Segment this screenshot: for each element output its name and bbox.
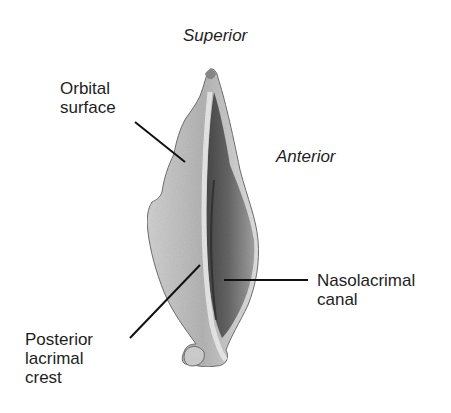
posterior-lacrimal-crest-label-line2: lacrimal: [25, 349, 93, 368]
orbital-surface-label-line1: Orbital: [60, 79, 116, 98]
orbital-surface-label: Orbital surface: [60, 79, 116, 117]
superior-label: Superior: [183, 26, 247, 45]
nasolacrimal-canal-label-line2: canal: [317, 290, 415, 309]
posterior-lacrimal-crest-label-line3: crest: [25, 368, 93, 387]
anterior-label: Anterior: [276, 147, 336, 166]
nasolacrimal-canal-label-line1: Nasolacrimal: [317, 271, 415, 290]
orbital-surface-label-line2: surface: [60, 98, 116, 117]
posterior-lacrimal-crest-label-line1: Posterior: [25, 330, 93, 349]
bone-shape: [147, 69, 258, 367]
posterior-lacrimal-crest-label: Posterior lacrimal crest: [25, 330, 93, 387]
nasolacrimal-canal-label: Nasolacrimal canal: [317, 271, 415, 309]
lacrimal-hamulus: [184, 346, 204, 366]
